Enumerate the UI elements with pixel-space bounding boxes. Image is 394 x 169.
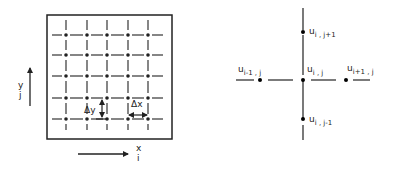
grid-node — [126, 74, 130, 78]
grid-node — [64, 74, 68, 78]
grid-node — [85, 117, 89, 121]
delta-y-label: Δy — [84, 105, 96, 115]
label-right: ui+1 , j — [347, 63, 374, 76]
x-axis-label: x — [136, 143, 142, 153]
grid-node — [85, 33, 89, 37]
grid-node — [146, 117, 150, 121]
grid-node — [146, 74, 150, 78]
grid-node — [64, 33, 68, 37]
grid-node — [146, 33, 150, 37]
label-left: ui-1 , j — [238, 64, 261, 77]
diagram-canvas: Δy Δx y j x i ui , j ui-1 , j ui+1 , j u… — [0, 0, 394, 169]
grid-node — [146, 96, 150, 100]
grid-node — [64, 96, 68, 100]
grid-node — [105, 53, 109, 57]
grid-node — [64, 117, 68, 121]
node-top — [301, 30, 305, 34]
node-left — [258, 78, 262, 82]
delta-x-label: Δx — [131, 99, 143, 109]
label-bottom: ui , j-1 — [309, 114, 332, 127]
five-point-stencil: ui , j ui-1 , j ui+1 , j ui , j+1 ui , j… — [236, 8, 374, 140]
label-center: ui , j — [307, 64, 323, 77]
grid-node — [126, 33, 130, 37]
y-axis-label: y — [18, 80, 24, 90]
grid-node — [85, 74, 89, 78]
label-top: ui , j+1 — [309, 26, 336, 39]
grid-node — [105, 33, 109, 37]
computational-grid: Δy Δx y j x i — [18, 15, 172, 163]
grid-node — [126, 96, 130, 100]
grid-node — [85, 53, 89, 57]
node-center — [301, 78, 305, 82]
node-bottom — [301, 117, 305, 121]
grid-node — [146, 53, 150, 57]
grid-node — [85, 96, 89, 100]
x-axis-index-label: i — [137, 153, 140, 163]
node-right — [344, 78, 348, 82]
grid-node — [126, 117, 130, 121]
y-axis-index-label: j — [18, 90, 22, 100]
grid-node — [105, 96, 109, 100]
grid-node — [105, 74, 109, 78]
grid-node — [64, 53, 68, 57]
grid-node — [126, 53, 130, 57]
